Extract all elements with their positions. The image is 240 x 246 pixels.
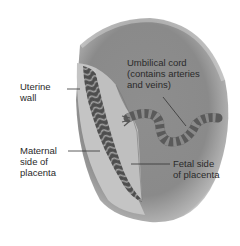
placenta-diagram: Uterine wall Umbilical cord (contains ar… (0, 0, 240, 246)
label-umbilical-cord: Umbilical cord (contains arteries and ve… (127, 57, 200, 90)
label-uterine-wall: Uterine wall (20, 81, 51, 103)
placenta-illustration (0, 0, 240, 246)
label-fetal-side: Fetal side of placenta (173, 158, 219, 180)
label-maternal-side: Maternal side of placenta (20, 145, 57, 178)
